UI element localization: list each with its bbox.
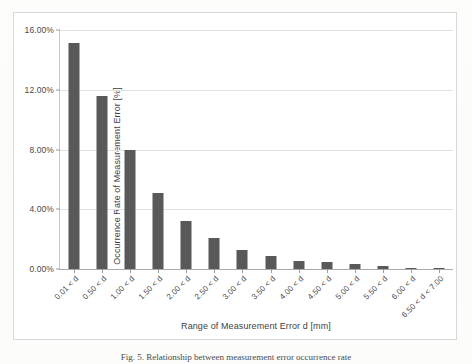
bar[interactable] <box>209 238 220 269</box>
x-tick-mark <box>299 269 300 273</box>
bar-slot: 0.50 < d <box>88 30 116 269</box>
x-tick-label: 0.50 < d <box>81 274 109 302</box>
bar[interactable] <box>97 96 108 269</box>
x-tick-label: 6.00 < d <box>390 274 418 302</box>
bar[interactable] <box>321 262 332 269</box>
y-tick-label: 16.00% <box>25 25 54 35</box>
x-tick-mark <box>158 269 159 273</box>
bar-slot: 6.50 < d < 7.00 <box>425 30 453 269</box>
x-tick-mark <box>355 269 356 273</box>
bar-slot: 2.50 < d <box>200 30 228 269</box>
bar[interactable] <box>181 221 192 269</box>
x-tick-mark <box>130 269 131 273</box>
bar-slot: 5.50 < d <box>369 30 397 269</box>
bar[interactable] <box>265 256 276 269</box>
x-tick-label: 3.00 < d <box>221 274 249 302</box>
bar-slot: 1.00 < d <box>116 30 144 269</box>
bar-series: 0.01 < d0.50 < d1.00 < d1.50 < d2.00 < d… <box>60 30 453 269</box>
bar-slot: 2.00 < d <box>172 30 200 269</box>
x-tick-mark <box>74 269 75 273</box>
bar-slot: 5.00 < d <box>341 30 369 269</box>
x-tick-label: 1.50 < d <box>137 274 165 302</box>
bar-slot: 3.00 < d <box>228 30 256 269</box>
bar-slot: 0.01 < d <box>60 30 88 269</box>
bar[interactable] <box>153 193 164 269</box>
chart-frame: Occurrence Rate of Measurement Error [%]… <box>13 12 457 340</box>
x-tick-label: 2.00 < d <box>165 274 193 302</box>
x-tick-label: 5.00 < d <box>334 274 362 302</box>
bar-slot: 6.00 < d <box>397 30 425 269</box>
y-tick-label: 8.00% <box>29 145 54 155</box>
bar[interactable] <box>125 150 136 269</box>
bar-slot: 4.50 < d <box>313 30 341 269</box>
plot-area: 0.00%4.00%8.00%12.00%16.00% 0.01 < d0.50… <box>59 30 453 270</box>
x-tick-mark <box>383 269 384 273</box>
x-tick-mark <box>411 269 412 273</box>
bar-slot: 4.00 < d <box>285 30 313 269</box>
figure-caption: Fig. 5. Relationship between measurement… <box>0 352 472 364</box>
x-tick-label: 4.00 < d <box>277 274 305 302</box>
y-tick-label: 12.00% <box>25 85 54 95</box>
y-tick-label: 4.00% <box>29 204 54 214</box>
bar[interactable] <box>293 261 304 269</box>
bar-slot: 1.50 < d <box>144 30 172 269</box>
x-tick-label: 0.01 < d <box>53 274 81 302</box>
x-tick-label: 1.00 < d <box>109 274 137 302</box>
x-tick-mark <box>102 269 103 273</box>
x-tick-mark <box>186 269 187 273</box>
bar-slot: 3.50 < d <box>257 30 285 269</box>
x-tick-mark <box>327 269 328 273</box>
bar[interactable] <box>237 250 248 269</box>
x-tick-mark <box>242 269 243 273</box>
x-tick-label: 2.50 < d <box>193 274 221 302</box>
bar[interactable] <box>69 43 80 269</box>
x-tick-label: 5.50 < d <box>362 274 390 302</box>
x-tick-mark <box>439 269 440 273</box>
x-tick-mark <box>214 269 215 273</box>
x-tick-label: 4.50 < d <box>306 274 334 302</box>
x-tick-label: 3.50 < d <box>249 274 277 302</box>
x-axis-title: Range of Measurement Error d [mm] <box>59 321 453 331</box>
y-tick-label: 0.00% <box>29 264 54 274</box>
x-tick-mark <box>271 269 272 273</box>
